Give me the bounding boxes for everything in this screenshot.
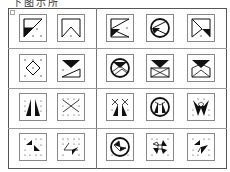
row4-given-2: [57, 133, 85, 161]
row1-option-1[interactable]: [106, 14, 134, 42]
twin-spikes-figure-icon: [22, 96, 44, 118]
envelope-open-with-filled-triangle-icon: [190, 57, 212, 79]
row4-option-2[interactable]: [146, 133, 174, 161]
circle-fan-figure-icon: [149, 17, 171, 39]
row3-given-2: [57, 93, 85, 121]
row1-option-3[interactable]: [187, 14, 215, 42]
row2-option-2[interactable]: [146, 54, 174, 82]
circle-with-twin-spikes-icon: [149, 96, 171, 118]
row3-option-1[interactable]: [106, 93, 134, 121]
dotted-x-figure-icon: [60, 96, 82, 118]
row2-option-3[interactable]: [187, 54, 215, 82]
envelope-with-filled-triangle-icon: [149, 57, 171, 79]
row2-given-2: [57, 54, 85, 82]
filled-triangle-over-right-triangle-icon: [60, 57, 82, 79]
row4-given-1: [19, 133, 47, 161]
corner-mark: [10, 10, 15, 15]
four-point-star-icon: [149, 136, 171, 158]
row2-option-1[interactable]: [106, 54, 134, 82]
row4-option-1[interactable]: [106, 133, 134, 161]
row-divider-1: [8, 48, 227, 49]
row-divider-3: [8, 128, 227, 129]
two-small-triangles-icon: [22, 136, 44, 158]
two-diagonal-triangles-icon: [190, 136, 212, 158]
row-divider-2: [8, 88, 227, 89]
diamond-figure-icon: [22, 57, 44, 79]
circle-with-filled-triangle-icon: [109, 57, 131, 79]
row4-option-3[interactable]: [187, 133, 215, 161]
row1-given-2: [57, 14, 85, 42]
triangle-fan-figure-icon: [109, 17, 131, 39]
row3-option-2[interactable]: [146, 93, 174, 121]
w-shape-with-spikes-icon: [190, 96, 212, 118]
row3-option-3[interactable]: [187, 93, 215, 121]
row1-given-1: [19, 14, 47, 42]
row1-option-2[interactable]: [146, 14, 174, 42]
chevron-figure-icon: [60, 17, 82, 39]
zigzag-triangle-icon: [60, 136, 82, 158]
row3-given-1: [19, 93, 47, 121]
circle-pinwheel-icon: [109, 136, 131, 158]
triangle-diagonal-figure-icon: [22, 17, 44, 39]
triangle-fan-right-figure-icon: [190, 17, 212, 39]
row2-given-1: [19, 54, 47, 82]
twin-spikes-with-x-icon: [109, 96, 131, 118]
